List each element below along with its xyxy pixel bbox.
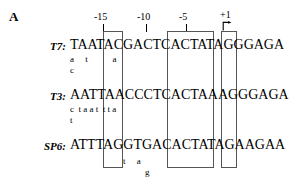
panel-letter-a: A — [9, 10, 18, 23]
alt-base-line-sp6-1: t a — [123, 157, 141, 166]
alt-base-line-t7-2: c — [70, 66, 74, 75]
transcription-start-arrow — [222, 21, 232, 31]
promoter-alignment-figure: A -15 -10 -5 +1 T7: TAATACGACTCACTATAGGG… — [0, 0, 299, 184]
ruler-label-minus5: -5 — [179, 12, 187, 22]
ruler-tick-minus10 — [146, 24, 147, 32]
alt-base-line-t3-2: t — [70, 116, 73, 125]
sequence-text-sp6: ATTTAGGTGACACTATAGAAGAA — [70, 138, 285, 152]
alt-base-line-sp6-2: g — [145, 168, 150, 177]
sequence-text-t7: TAATACGACTCACTATAGGGAGA — [70, 38, 284, 52]
row-label-t3: T3: — [18, 91, 66, 102]
alt-base-line-t3-1: c t a a t t t a — [70, 105, 116, 114]
alt-base-line-t7-1: a t a — [70, 55, 117, 64]
row-label-sp6: SP6: — [14, 141, 66, 152]
ruler-label-minus15: -15 — [94, 12, 107, 22]
ruler-label-minus10: -10 — [137, 12, 150, 22]
row-label-t7: T7: — [18, 41, 66, 52]
ruler-label-plus1: +1 — [220, 10, 231, 20]
sequence-text-t3: AATTAACCCTCACTAAAGGGAGA — [70, 88, 289, 102]
